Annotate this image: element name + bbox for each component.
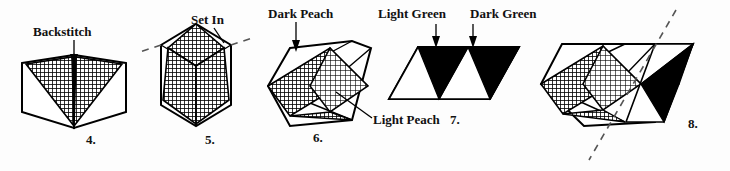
figure-6-number: 6.: [313, 130, 323, 145]
dark-green-label: Dark Green: [470, 6, 537, 21]
figure-8-number: 8.: [688, 116, 698, 131]
figure-7-number: 7.: [450, 112, 460, 127]
light-green-label: Light Green: [378, 6, 447, 21]
figure-4-number: 4.: [86, 132, 96, 147]
light-peach-label: Light Peach: [373, 112, 441, 127]
illustration-page: Backstitch 4. Set In 5.: [0, 0, 730, 171]
figure-5-number: 5.: [205, 132, 215, 147]
dark-peach-label: Dark Peach: [268, 6, 334, 21]
backstitch-label: Backstitch: [33, 24, 92, 39]
set-in-label: Set In: [191, 12, 225, 27]
